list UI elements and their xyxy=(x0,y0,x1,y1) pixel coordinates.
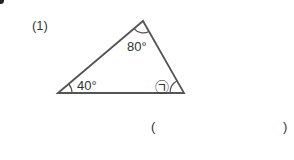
angle-label-left: 40° xyxy=(77,78,97,93)
answer-close-paren: ) xyxy=(283,119,287,134)
triangle-figure xyxy=(0,0,294,160)
angle-label-unknown: ㉠ xyxy=(155,76,169,96)
answer-blank[interactable] xyxy=(162,119,280,135)
angle-arc-left xyxy=(69,84,72,93)
answer-open-paren: ( xyxy=(151,119,155,134)
angle-label-top: 80° xyxy=(127,39,147,54)
angle-arc-right xyxy=(170,81,177,93)
